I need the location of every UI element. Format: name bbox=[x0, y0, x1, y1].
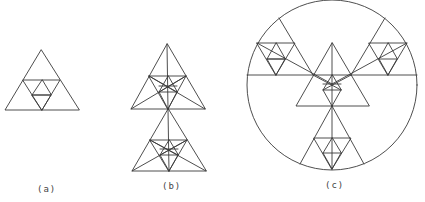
figure-b-bottom-triangle bbox=[132, 109, 206, 171]
figure-b-top-triangle bbox=[131, 44, 205, 109]
figure-a-nested-triangles bbox=[5, 50, 79, 110]
figure-c-label: (c) bbox=[325, 180, 344, 190]
fractal-triangle-diagram bbox=[0, 0, 425, 202]
figure-b-label: (b) bbox=[162, 181, 181, 191]
figure-a-label: (a) bbox=[37, 184, 56, 194]
figure-c-circle-fractal bbox=[247, 0, 417, 170]
